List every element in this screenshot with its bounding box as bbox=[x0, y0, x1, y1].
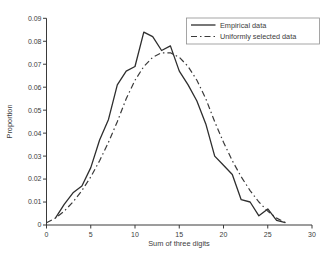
x-tick-label: 15 bbox=[175, 231, 183, 238]
y-tick-label: 0.03 bbox=[28, 153, 42, 160]
y-tick-label: 0.04 bbox=[28, 130, 42, 137]
x-axis-label: Sum of three digits bbox=[148, 239, 210, 248]
y-tick-label: 0.05 bbox=[28, 107, 42, 114]
legend-label-uniform: Uniformly selected data bbox=[220, 32, 297, 41]
legend-label-empirical: Empirical data bbox=[220, 21, 267, 30]
x-tick-label: 0 bbox=[45, 231, 49, 238]
x-tick-label: 5 bbox=[89, 231, 93, 238]
empirical-data-line bbox=[55, 32, 285, 223]
x-tick-label: 30 bbox=[308, 231, 316, 238]
y-tick-label: 0 bbox=[38, 221, 42, 228]
uniform-data-line bbox=[47, 53, 286, 223]
plot-lines bbox=[47, 32, 286, 223]
y-tick-label: 0.07 bbox=[28, 61, 42, 68]
x-tick-label: 20 bbox=[220, 231, 228, 238]
y-tick-label: 0.06 bbox=[28, 84, 42, 91]
axis-lines bbox=[47, 18, 313, 225]
y-tick-label: 0.08 bbox=[28, 38, 42, 45]
x-tick-label: 10 bbox=[131, 231, 139, 238]
chart-canvas: 00.010.020.030.040.050.060.070.080.09051… bbox=[0, 0, 332, 262]
legend: Empirical data Uniformly selected data bbox=[187, 18, 320, 44]
y-tick-label: 0.01 bbox=[28, 198, 42, 205]
x-tick-label: 25 bbox=[264, 231, 272, 238]
y-axis-label: Proportion bbox=[5, 104, 14, 138]
figure: 00.010.020.030.040.050.060.070.080.09051… bbox=[0, 0, 332, 262]
y-tick-label: 0.02 bbox=[28, 175, 42, 182]
y-tick-label: 0.09 bbox=[28, 15, 42, 22]
